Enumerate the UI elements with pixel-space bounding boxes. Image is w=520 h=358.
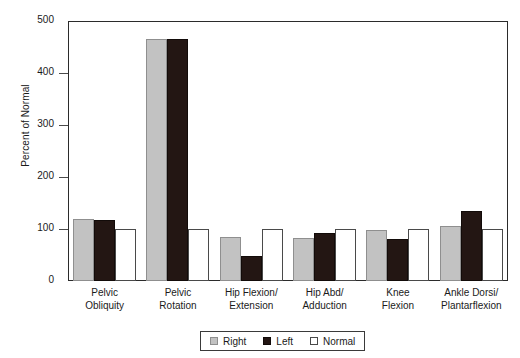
legend-item-left: Left [263, 336, 293, 347]
y-tick-label: 300 [37, 118, 54, 129]
bar-group [141, 21, 214, 281]
plot-area [68, 21, 508, 281]
y-tick-label: 500 [37, 14, 54, 25]
x-axis-category-label: PelvicObliquity [68, 287, 141, 312]
bar-normal [335, 229, 356, 281]
bar-right [440, 226, 461, 281]
bar-left [314, 233, 335, 281]
y-tick-label: 0 [48, 274, 54, 285]
legend-item-right: Right [210, 336, 246, 347]
gray-swatch [210, 337, 218, 345]
x-axis-category-label: Ankle Dorsi/Plantarflexion [435, 287, 508, 312]
bar-group [288, 21, 361, 281]
x-axis-category-label: KneeFlexion [361, 287, 434, 312]
legend-label: Left [276, 336, 293, 347]
black-swatch [263, 337, 271, 345]
bar-right [220, 237, 241, 281]
bar-right [293, 238, 314, 281]
bar-right [366, 230, 387, 281]
bar-group [361, 21, 434, 281]
bar-normal [188, 229, 209, 281]
x-axis-category-label: PelvicRotation [141, 287, 214, 312]
y-tick-mark [59, 73, 68, 74]
bar-left [387, 239, 408, 281]
x-axis-category-label: Hip Flexion/Extension [215, 287, 288, 312]
y-tick-label: 400 [37, 66, 54, 77]
bar-left [94, 220, 115, 281]
y-tick-mark [59, 229, 68, 230]
bar-right [73, 219, 94, 281]
y-tick-label: 100 [37, 222, 54, 233]
y-tick-mark [59, 177, 68, 178]
bar-group [215, 21, 288, 281]
y-tick-label: 200 [37, 170, 54, 181]
y-axis-title: Percent of Normal [20, 46, 31, 206]
bar-left [461, 211, 482, 281]
y-tick-mark [59, 125, 68, 126]
bar-group [68, 21, 141, 281]
bar-right [146, 39, 167, 281]
bar-normal [115, 229, 136, 281]
legend-label: Right [223, 336, 246, 347]
x-axis-category-label: Hip Abd/Adduction [288, 287, 361, 312]
bar-normal [262, 229, 283, 281]
bar-normal [408, 229, 429, 281]
bar-normal [482, 229, 503, 281]
legend-item-normal: Normal [310, 336, 355, 347]
legend-label: Normal [323, 336, 355, 347]
bar-left [167, 39, 188, 281]
white-swatch [310, 337, 318, 345]
chart-legend: RightLeftNormal [200, 331, 365, 351]
bar-chart: Percent of Normal 0100200300400500 Pelvi… [0, 0, 520, 358]
bar-group [435, 21, 508, 281]
bar-left [241, 256, 262, 281]
